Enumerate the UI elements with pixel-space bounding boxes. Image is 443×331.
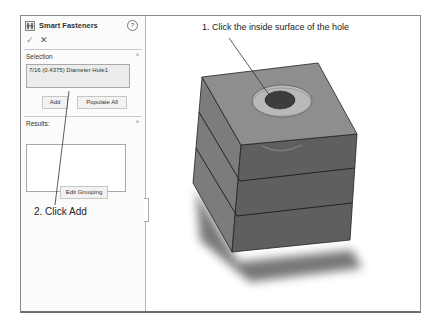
- solidworks-window: Smart Fasteners ? ✓ ✕ Selection ^ 7/16 (…: [20, 15, 421, 313]
- selection-section-label: Selection: [26, 53, 53, 60]
- edit-grouping-button[interactable]: Edit Grouping: [60, 186, 108, 199]
- selection-item[interactable]: 7/16 (0.4375) Diameter Hole1: [29, 67, 108, 73]
- panel-title: Smart Fasteners: [39, 21, 98, 30]
- smart-fastener-icon: [25, 21, 35, 31]
- property-manager-panel: Smart Fasteners ? ✓ ✕ Selection ^ 7/16 (…: [21, 16, 146, 311]
- panel-collapse-handle[interactable]: [144, 198, 149, 222]
- callout-step-1: 1. Click the inside surface of the hole: [202, 22, 349, 32]
- callout-step-2: 2. Click Add: [34, 206, 87, 217]
- results-list[interactable]: [26, 144, 126, 192]
- panel-header: Smart Fasteners ?: [25, 21, 140, 33]
- selection-list[interactable]: 7/16 (0.4375) Diameter Hole1: [26, 64, 130, 88]
- divider: [24, 116, 142, 117]
- help-icon[interactable]: ?: [127, 20, 138, 31]
- populate-all-button[interactable]: Populate All: [77, 96, 127, 109]
- add-button[interactable]: Add: [42, 96, 68, 109]
- chevron-up-icon[interactable]: ^: [136, 52, 139, 59]
- divider: [24, 49, 142, 50]
- chevron-up-icon[interactable]: ^: [136, 119, 139, 126]
- results-section-label: Results:: [26, 120, 49, 127]
- close-icon[interactable]: ✕: [40, 35, 48, 45]
- check-icon[interactable]: ✓: [26, 35, 34, 45]
